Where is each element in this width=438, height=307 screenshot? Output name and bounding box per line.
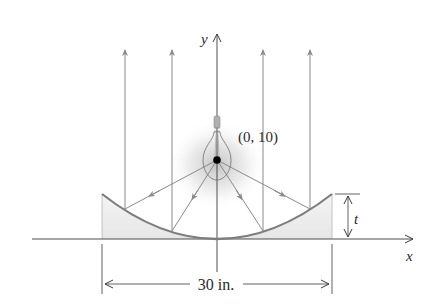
focus-point (213, 156, 221, 164)
x-axis-label: x (405, 248, 413, 264)
y-axis-label: y (199, 31, 208, 47)
incident-ray-4-arrow (274, 190, 285, 196)
width-label: 30 in. (198, 276, 234, 293)
parabolic-reflector-diagram: (0, 10) y x t 30 in. (0, 0, 438, 307)
focus-label: (0, 10) (238, 129, 278, 146)
depth-label: t (354, 211, 359, 227)
incident-ray-1-arrow (149, 190, 160, 196)
